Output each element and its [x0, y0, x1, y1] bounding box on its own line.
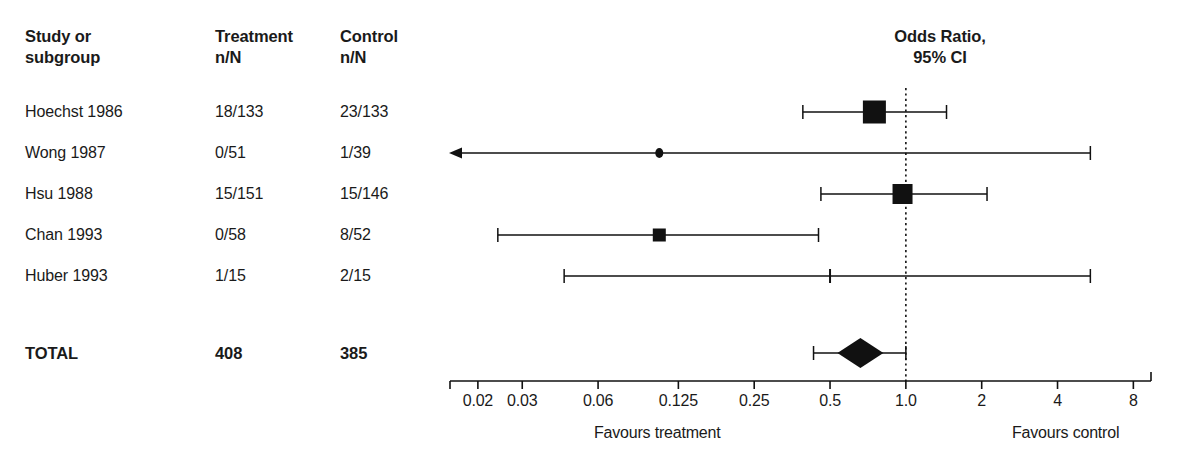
- x-axis-label-4: 4: [1053, 393, 1062, 409]
- forest-plot-figure: Study or subgroup Treatment n/N Control …: [0, 0, 1188, 461]
- study-1-effect-marker-square: [863, 101, 886, 124]
- study-2-ci-left-arrowhead: [449, 148, 462, 159]
- x-axis-label-0.03: 0.03: [507, 393, 537, 409]
- study-3-effect-marker-square: [893, 184, 913, 204]
- total-pooled-diamond: [837, 338, 883, 368]
- x-axis-label-8: 8: [1129, 393, 1138, 409]
- study-4-effect-marker-square: [653, 229, 666, 242]
- study-2-effect-marker-dot: [655, 148, 663, 158]
- x-axis-label-0.02: 0.02: [463, 393, 493, 409]
- x-axis-label-1.0: 1.0: [895, 393, 917, 409]
- x-axis-label-0.5: 0.5: [819, 393, 841, 409]
- x-axis-label-0.25: 0.25: [739, 393, 769, 409]
- x-axis-label-0.125: 0.125: [659, 393, 698, 409]
- axis-caption-favours-control: Favours control: [1012, 425, 1119, 441]
- x-axis-label-0.06: 0.06: [583, 393, 613, 409]
- x-axis-label-2: 2: [977, 393, 986, 409]
- axis-caption-favours-treatment: Favours treatment: [594, 425, 720, 441]
